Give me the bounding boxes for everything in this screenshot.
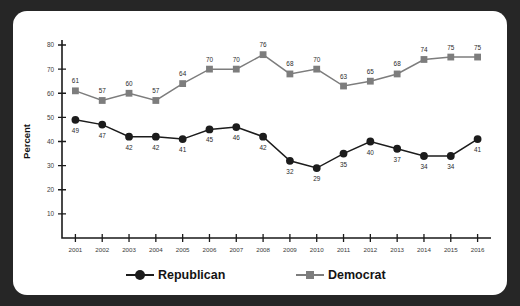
legend-item-dem[interactable]: Democrat bbox=[296, 268, 386, 282]
data-point-dem bbox=[126, 90, 133, 97]
data-point-rep bbox=[206, 126, 214, 134]
data-label-rep: 29 bbox=[313, 175, 321, 182]
data-label-rep: 49 bbox=[72, 127, 80, 134]
data-label-rep: 41 bbox=[179, 146, 187, 153]
data-label-dem: 68 bbox=[286, 60, 294, 67]
data-point-rep bbox=[340, 150, 348, 158]
data-label-rep: 42 bbox=[152, 144, 160, 151]
data-point-rep bbox=[98, 121, 106, 129]
x-tick-label: 2004 bbox=[149, 246, 163, 253]
x-axis-ticks: 2001200220032004200520062007200820092010… bbox=[69, 234, 486, 253]
chart-screenshot: 1020304050607080Percent20012002200320042… bbox=[0, 0, 520, 306]
x-tick-label: 2009 bbox=[283, 246, 297, 253]
data-point-dem bbox=[287, 71, 294, 78]
data-point-rep bbox=[366, 138, 374, 146]
x-tick-label: 2011 bbox=[337, 246, 351, 253]
data-point-dem bbox=[206, 66, 213, 73]
data-label-rep: 34 bbox=[447, 163, 455, 170]
data-label-dem: 76 bbox=[260, 41, 268, 48]
data-point-dem bbox=[421, 56, 428, 63]
data-label-dem: 57 bbox=[152, 87, 160, 94]
data-point-dem bbox=[474, 54, 481, 61]
x-tick-label: 2007 bbox=[229, 246, 243, 253]
data-point-rep bbox=[313, 164, 321, 172]
x-tick-label: 2003 bbox=[122, 246, 136, 253]
x-tick-label: 2002 bbox=[95, 246, 109, 253]
data-label-rep: 47 bbox=[99, 132, 107, 139]
x-tick-label: 2014 bbox=[417, 246, 431, 253]
data-label-rep: 32 bbox=[286, 168, 294, 175]
data-label-dem: 61 bbox=[72, 77, 80, 84]
data-label-rep: 37 bbox=[394, 156, 402, 163]
series-line-dem bbox=[75, 55, 477, 101]
legend-item-rep[interactable]: Republican bbox=[126, 268, 225, 282]
x-tick-label: 2008 bbox=[256, 246, 270, 253]
x-tick-label: 2012 bbox=[363, 246, 377, 253]
x-tick-label: 2005 bbox=[176, 246, 190, 253]
x-tick-label: 2016 bbox=[471, 246, 485, 253]
legend-marker-dem bbox=[306, 271, 314, 279]
data-label-dem: 63 bbox=[340, 73, 348, 80]
data-label-dem: 75 bbox=[474, 44, 482, 51]
data-label-dem: 70 bbox=[233, 56, 241, 63]
data-point-dem bbox=[447, 54, 454, 61]
data-point-rep bbox=[420, 152, 428, 160]
plot-area: 1020304050607080Percent20012002200320042… bbox=[13, 11, 507, 295]
legend-marker-rep bbox=[135, 270, 145, 280]
data-point-dem bbox=[233, 66, 240, 73]
data-label-dem: 64 bbox=[179, 70, 187, 77]
x-tick-label: 2015 bbox=[444, 246, 458, 253]
data-point-rep bbox=[72, 116, 80, 124]
x-tick-label: 2006 bbox=[203, 246, 217, 253]
data-point-rep bbox=[152, 133, 160, 141]
data-point-dem bbox=[313, 66, 320, 73]
y-tick-label: 10 bbox=[47, 210, 55, 217]
data-label-dem: 74 bbox=[420, 46, 428, 53]
y-tick-label: 40 bbox=[47, 138, 55, 145]
chart-legend: RepublicanDemocrat bbox=[126, 268, 386, 282]
y-tick-label: 30 bbox=[47, 162, 55, 169]
data-point-dem bbox=[340, 83, 347, 90]
data-label-rep: 41 bbox=[474, 146, 482, 153]
data-label-dem: 68 bbox=[394, 60, 402, 67]
data-label-rep: 40 bbox=[367, 149, 375, 156]
x-tick-label: 2010 bbox=[310, 246, 324, 253]
x-tick-label: 2001 bbox=[69, 246, 83, 253]
y-axis-title: Percent bbox=[21, 123, 32, 159]
legend-label-rep: Republican bbox=[158, 268, 225, 282]
series-rep: 49474242414546423229354037343441 bbox=[72, 116, 482, 182]
data-point-rep bbox=[286, 157, 294, 165]
data-point-rep bbox=[259, 133, 267, 141]
data-point-dem bbox=[72, 87, 79, 94]
y-tick-label: 70 bbox=[47, 66, 55, 73]
data-point-dem bbox=[394, 71, 401, 78]
data-label-rep: 46 bbox=[233, 134, 241, 141]
data-point-rep bbox=[447, 152, 455, 160]
y-tick-label: 80 bbox=[47, 41, 55, 48]
series-dem: 61576057647070766870636568747575 bbox=[72, 41, 482, 104]
data-label-rep: 42 bbox=[125, 144, 133, 151]
data-label-dem: 70 bbox=[313, 56, 321, 63]
x-tick-label: 2013 bbox=[390, 246, 404, 253]
data-point-rep bbox=[179, 135, 187, 143]
data-point-rep bbox=[232, 123, 240, 131]
y-axis-ticks: 1020304050607080 bbox=[47, 41, 66, 217]
data-label-rep: 34 bbox=[420, 163, 428, 170]
data-label-dem: 70 bbox=[206, 56, 214, 63]
line-chart: 1020304050607080Percent20012002200320042… bbox=[13, 11, 507, 295]
data-label-dem: 57 bbox=[99, 87, 107, 94]
y-tick-label: 50 bbox=[47, 114, 55, 121]
y-tick-label: 20 bbox=[47, 186, 55, 193]
data-point-dem bbox=[260, 51, 267, 58]
data-point-dem bbox=[99, 97, 106, 104]
data-label-dem: 75 bbox=[447, 44, 455, 51]
legend-label-dem: Democrat bbox=[328, 268, 386, 282]
y-tick-label: 60 bbox=[47, 90, 55, 97]
data-label-dem: 60 bbox=[125, 80, 133, 87]
data-point-rep bbox=[125, 133, 133, 141]
data-label-rep: 42 bbox=[260, 144, 268, 151]
data-label-rep: 35 bbox=[340, 161, 348, 168]
data-point-dem bbox=[152, 97, 159, 104]
data-point-rep bbox=[474, 135, 482, 143]
data-label-rep: 45 bbox=[206, 136, 214, 143]
